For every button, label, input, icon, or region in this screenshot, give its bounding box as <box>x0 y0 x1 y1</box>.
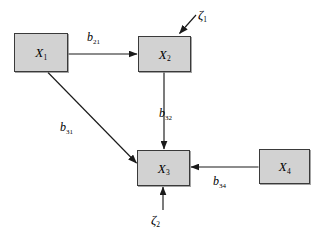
path-label-b32: b32 <box>159 107 172 119</box>
node-x1-label: X1 <box>35 46 47 59</box>
path-label-b31: b31 <box>60 121 73 133</box>
node-x2-label: X2 <box>159 48 171 61</box>
path-diagram-canvas: X1 X2 X3 X4 b21 b32 b31 b34 ζ1 ζ2 <box>0 0 319 239</box>
node-x4[interactable]: X4 <box>259 149 310 184</box>
edge-zeta1-to-x2 <box>180 15 197 34</box>
node-x3[interactable]: X3 <box>137 150 190 186</box>
edge-x1-to-x3 <box>48 73 137 164</box>
node-x4-label: X4 <box>279 160 291 173</box>
path-label-b21: b21 <box>87 31 100 43</box>
disturbance-label-zeta1: ζ1 <box>198 8 207 21</box>
node-x1[interactable]: X1 <box>14 33 68 72</box>
path-label-b34: b34 <box>213 175 226 187</box>
disturbance-label-zeta2: ζ2 <box>151 213 160 226</box>
node-x2[interactable]: X2 <box>138 36 191 72</box>
node-x3-label: X3 <box>158 162 170 175</box>
